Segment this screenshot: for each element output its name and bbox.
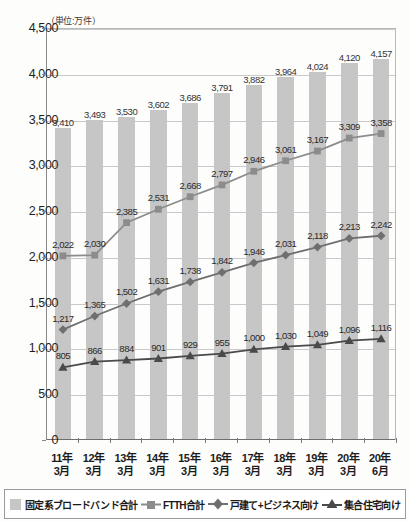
point-value-label: 1,842 xyxy=(211,255,232,266)
y-axis-tick-label: 4,000 xyxy=(0,67,58,81)
x-axis-labels: 11年3月12年3月13年3月14年3月15年3月16年3月17年3月18年3月… xyxy=(46,444,396,484)
x-axis-label-line: 3月 xyxy=(274,465,296,478)
x-axis-label-line: 20年 xyxy=(369,452,391,465)
point-value-label: 955 xyxy=(215,337,229,348)
y-axis-tick xyxy=(42,257,46,258)
legend-item[interactable]: 戸建て+ビジネス向け xyxy=(208,497,319,512)
y-axis-tick-label: 4,500 xyxy=(0,21,58,35)
x-axis-label-line: 3月 xyxy=(51,465,72,478)
y-axis-tick-label: 3,500 xyxy=(0,113,58,127)
y-axis-tick-label: 2,500 xyxy=(0,204,58,218)
y-axis-tick xyxy=(42,120,46,121)
diamond-marker xyxy=(281,251,290,260)
diamond-marker xyxy=(218,268,227,277)
series-line xyxy=(63,236,381,330)
x-axis-label: 17年3月 xyxy=(242,452,264,478)
x-axis-label-line: 3月 xyxy=(178,465,200,478)
square-marker xyxy=(314,148,321,155)
x-axis-label: 11年3月 xyxy=(51,452,72,478)
y-axis-tick xyxy=(42,165,46,166)
x-axis-label: 14年3月 xyxy=(146,452,168,478)
point-value-label: 2,668 xyxy=(180,180,201,191)
x-axis-tick xyxy=(364,438,365,443)
x-axis-label-line: 18年 xyxy=(274,452,296,465)
x-axis-tick xyxy=(269,438,270,443)
series-lines-layer xyxy=(47,29,395,440)
broadband-subscriptions-chart: （単位:万件） 3,4103,4933,5303,6023,6863,7913,… xyxy=(0,0,410,522)
x-axis-label-line: 3月 xyxy=(337,465,359,478)
square-marker xyxy=(219,182,226,189)
x-axis-label-line: 12年 xyxy=(83,452,105,465)
square-marker xyxy=(155,206,162,213)
legend-label: 戸建て+ビジネス向け xyxy=(230,497,319,512)
x-axis-label-line: 11年 xyxy=(51,452,72,465)
square-marker xyxy=(346,135,353,142)
legend-item[interactable]: 集合住宅向け xyxy=(322,497,400,512)
x-axis-label-line: 3月 xyxy=(115,465,137,478)
series-line xyxy=(63,134,381,256)
point-value-label: 2,797 xyxy=(211,168,232,179)
y-axis-tick-label: 2,000 xyxy=(0,250,58,264)
legend-triangle-marker-icon xyxy=(322,498,342,510)
x-axis-label: 12年3月 xyxy=(83,452,105,478)
point-value-label: 1,631 xyxy=(148,275,169,286)
diamond-marker xyxy=(154,287,163,296)
x-axis-tick xyxy=(332,438,333,443)
point-value-label: 2,031 xyxy=(275,238,296,249)
x-axis-label-line: 14年 xyxy=(146,452,168,465)
point-value-label: 3,358 xyxy=(370,117,391,128)
legend-label: 集合住宅向け xyxy=(344,497,400,512)
square-marker xyxy=(123,219,130,226)
square-marker xyxy=(378,130,385,137)
diamond-marker xyxy=(122,299,131,308)
y-axis-tick-label: 1,500 xyxy=(0,296,58,310)
point-value-label: 1,217 xyxy=(52,313,73,324)
point-value-label: 1,049 xyxy=(307,328,328,339)
y-axis-tick xyxy=(42,440,46,441)
legend-diamond-marker-icon xyxy=(208,498,228,510)
diamond-marker xyxy=(377,231,386,240)
x-axis-label-line: 6月 xyxy=(369,465,391,478)
y-axis-tick-label: 500 xyxy=(0,387,58,401)
plot-inner: 3,4103,4933,5303,6023,6863,7913,8823,964… xyxy=(47,29,395,440)
x-axis-label-line: 13年 xyxy=(115,452,137,465)
x-axis-label: 19年3月 xyxy=(305,452,327,478)
square-marker xyxy=(250,168,257,175)
point-value-label: 1,738 xyxy=(180,265,201,276)
x-axis-label: 20年6月 xyxy=(369,452,391,478)
diamond-marker xyxy=(345,234,354,243)
legend-item[interactable]: 固定系ブロードバンド合計 xyxy=(10,497,138,512)
x-axis-label-line: 3月 xyxy=(83,465,105,478)
point-value-label: 2,022 xyxy=(52,239,73,250)
x-axis-label-line: 19年 xyxy=(305,452,327,465)
y-axis-tick xyxy=(42,211,46,212)
x-axis-label-line: 17年 xyxy=(242,452,264,465)
x-axis-line xyxy=(47,439,395,440)
legend-item[interactable]: FTTH合計 xyxy=(141,497,204,512)
point-value-label: 2,213 xyxy=(339,221,360,232)
square-marker xyxy=(60,252,67,259)
point-value-label: 1,946 xyxy=(243,246,264,257)
point-value-label: 884 xyxy=(119,343,133,354)
point-value-label: 1,365 xyxy=(84,299,105,310)
point-value-label: 2,242 xyxy=(370,219,391,230)
point-value-label: 866 xyxy=(88,345,102,356)
y-axis-tick xyxy=(42,394,46,395)
point-value-label: 2,385 xyxy=(116,206,137,217)
point-value-label: 2,531 xyxy=(148,192,169,203)
legend-bar-swatch xyxy=(10,499,21,510)
y-axis-tick xyxy=(42,74,46,75)
x-axis-label-line: 3月 xyxy=(146,465,168,478)
point-value-label: 2,118 xyxy=(307,230,328,241)
diamond-marker xyxy=(249,258,258,267)
x-axis-label: 16年3月 xyxy=(210,452,232,478)
point-value-label: 901 xyxy=(151,342,165,353)
legend-label: FTTH合計 xyxy=(163,497,204,512)
x-axis-tick xyxy=(173,438,174,443)
x-axis-label: 20年3月 xyxy=(337,452,359,478)
x-axis-label-line: 3月 xyxy=(305,465,327,478)
point-value-label: 2,946 xyxy=(243,154,264,165)
chart-legend: 固定系ブロードバンド合計FTTH合計戸建て+ビジネス向け集合住宅向け xyxy=(4,489,406,519)
x-axis-label-line: 3月 xyxy=(210,465,232,478)
x-axis-tick xyxy=(78,438,79,443)
